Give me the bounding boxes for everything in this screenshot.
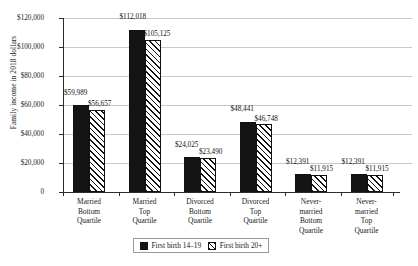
y-tick-label: $60,000 (21, 101, 44, 109)
x-category-label-line: Married (115, 197, 175, 207)
x-category-label-line: married (337, 207, 397, 217)
y-tick-label: $120,000 (17, 14, 44, 22)
bar-value-label: $12,391 (286, 158, 309, 166)
bar-group: $12,391$11,915 (351, 18, 383, 192)
x-category-label-line: Never- (281, 197, 341, 207)
bar-first-birth-14-19 (351, 174, 367, 192)
y-axis-line (63, 18, 64, 193)
y-tick-label: $80,000 (21, 72, 44, 80)
bar-first-birth-14-19 (240, 122, 256, 192)
x-category-label-line: Top (115, 207, 175, 217)
bar-group: $59,989$56,657 (73, 18, 105, 192)
x-tick-mark (63, 192, 64, 196)
x-category-label-line: Never- (337, 197, 397, 207)
bar-value-label: $56,657 (88, 100, 111, 108)
bar-group: $48,441$46,748 (240, 18, 272, 192)
bar-value-label: $11,915 (310, 165, 333, 173)
x-category-label-line: Quartile (281, 226, 341, 236)
bar-group: $12,391$11,915 (295, 18, 327, 192)
x-category-label-line: Bottom (170, 207, 230, 217)
x-category-label: DivorcedTopQuartile (226, 197, 286, 226)
x-category-label-line: Quartile (337, 226, 397, 236)
x-category-label-line: Quartile (115, 216, 175, 226)
bar-first-birth-20-plus (145, 40, 161, 192)
legend-label: First birth 14–19 (152, 241, 202, 250)
bar-value-label: $23,490 (199, 148, 222, 156)
x-category-label: MarriedBottomQuartile (59, 197, 119, 226)
bar-value-label: $48,441 (231, 105, 254, 113)
bar-first-birth-20-plus (367, 175, 383, 192)
x-category-label: MarriedTopQuartile (115, 197, 175, 226)
bar-first-birth-20-plus (89, 110, 105, 192)
bar-value-label: $112,018 (120, 13, 147, 21)
x-tick-mark (119, 192, 120, 196)
y-tick-label: $20,000 (21, 159, 44, 167)
bar-value-label: $46,748 (255, 115, 278, 123)
x-category-label-line: married (281, 207, 341, 217)
chart-legend: First birth 14–19 First birth 20+ (133, 238, 269, 253)
bar-value-label: $12,391 (342, 158, 365, 166)
y-tick-label: $100,000 (17, 43, 44, 51)
bar-chart: Family income in 2018 dollars 0$20,000$4… (0, 0, 418, 266)
bar-first-birth-14-19 (73, 105, 89, 192)
bar-first-birth-14-19 (295, 174, 311, 192)
legend-label: First birth 20+ (220, 241, 263, 250)
bar-group: $24,025$23,490 (184, 18, 216, 192)
legend-item-first-birth-14-19: First birth 14–19 (140, 241, 201, 250)
x-tick-mark (174, 192, 175, 196)
x-category-label-line: Bottom (281, 216, 341, 226)
x-category-label-line: Quartile (59, 216, 119, 226)
bar-first-birth-20-plus (200, 158, 216, 192)
x-category-label-line: Quartile (226, 216, 286, 226)
x-category-label-line: Bottom (59, 207, 119, 217)
y-axis-title: Family income in 2018 dollars (9, 13, 18, 153)
x-tick-mark (230, 192, 231, 196)
y-tick-label: $40,000 (21, 130, 44, 138)
x-tick-mark (393, 192, 394, 196)
legend-swatch-solid-icon (140, 242, 148, 250)
x-category-label-line: Top (226, 207, 286, 217)
x-tick-mark (285, 192, 286, 196)
bar-first-birth-20-plus (311, 175, 327, 192)
bar-value-label: $105,125 (144, 30, 171, 38)
bar-first-birth-14-19 (184, 157, 200, 192)
legend-swatch-hatched-icon (208, 242, 216, 250)
x-category-label: DivorcedBottomQuartile (170, 197, 230, 226)
bar-value-label: $24,025 (175, 141, 198, 149)
x-category-label-line: Married (59, 197, 119, 207)
y-tick-label: 0 (40, 188, 44, 196)
legend-item-first-birth-20-plus: First birth 20+ (208, 241, 262, 250)
x-tick-mark (341, 192, 342, 196)
x-category-label-line: Quartile (170, 216, 230, 226)
x-axis-line (63, 192, 400, 193)
x-category-label: Never-marriedBottomQuartile (281, 197, 341, 235)
x-category-label: Never-marriedTopQuartile (337, 197, 397, 235)
bar-value-label: $59,989 (64, 89, 87, 97)
bar-first-birth-14-19 (129, 30, 145, 192)
bar-value-label: $11,915 (366, 165, 389, 173)
x-category-label-line: Divorced (170, 197, 230, 207)
bar-group: $112,018$105,125 (129, 18, 161, 192)
x-category-label-line: Divorced (226, 197, 286, 207)
bar-first-birth-20-plus (256, 124, 272, 192)
x-category-label-line: Top (337, 216, 397, 226)
plot-area: 0$20,000$40,000$60,000$80,000$100,000$12… (63, 18, 412, 193)
